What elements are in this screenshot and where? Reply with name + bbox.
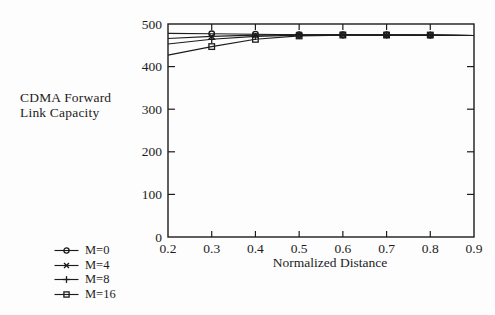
x-tick-label: 0.4 bbox=[247, 241, 264, 256]
plus-marker-icon bbox=[63, 276, 70, 283]
legend: M=0M=4M=8M=16 bbox=[54, 245, 116, 300]
legend-item: M=16 bbox=[54, 289, 116, 301]
x-tick-label: 0.7 bbox=[378, 241, 395, 256]
y-tick-label: 300 bbox=[142, 102, 163, 117]
y-tick-label: 100 bbox=[142, 187, 163, 202]
legend-key-sample bbox=[54, 289, 79, 300]
x-tick-label: 0.6 bbox=[334, 241, 351, 256]
x-tick-label: 0.5 bbox=[291, 241, 308, 256]
legend-key-sample bbox=[54, 260, 79, 271]
legend-item-label: M=16 bbox=[85, 287, 116, 302]
legend-item: M=4 bbox=[54, 260, 116, 272]
x-tick-label: 0.8 bbox=[422, 241, 439, 256]
legend-item: M=0 bbox=[54, 245, 116, 257]
y-tick-label: 200 bbox=[142, 144, 163, 159]
y-tick-label: 500 bbox=[142, 17, 163, 32]
plot-frame bbox=[168, 24, 474, 237]
x-tick-label: 0.2 bbox=[160, 241, 177, 256]
x-tick-label: 0.9 bbox=[466, 241, 483, 256]
legend-item-label: M=8 bbox=[85, 272, 109, 287]
legend-key-sample bbox=[54, 245, 79, 256]
legend-key-sample bbox=[54, 274, 79, 285]
y-tick-label: 0 bbox=[155, 230, 162, 245]
x-tick-label: 0.3 bbox=[203, 241, 220, 256]
legend-item-label: M=4 bbox=[85, 258, 109, 273]
x-axis-title: Normalized Distance bbox=[230, 255, 430, 271]
legend-item-label: M=0 bbox=[85, 243, 109, 258]
legend-item: M=8 bbox=[54, 274, 116, 286]
y-tick-label: 400 bbox=[142, 59, 163, 74]
